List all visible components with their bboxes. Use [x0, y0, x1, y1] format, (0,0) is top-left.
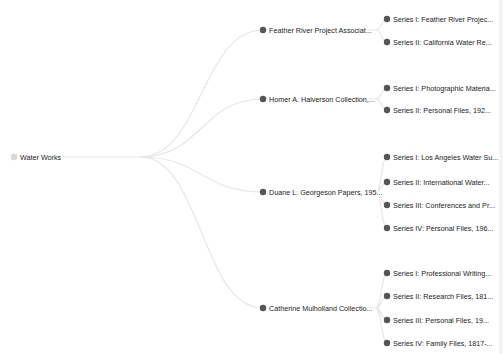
node-label: Series I: Los Angeles Water Su...: [393, 153, 498, 162]
node-label: Series II: Research Files, 181...: [393, 292, 493, 301]
node-dot-icon[interactable]: [384, 16, 390, 22]
node-label: Feather River Project Associat...: [269, 26, 372, 35]
node-dot-icon[interactable]: [384, 225, 390, 231]
tree-links: [14, 19, 387, 343]
node-label: Series I: Professional Writing...: [393, 269, 491, 278]
series-node[interactable]: Series I: Photographic Materia...: [384, 84, 496, 93]
node-dot-icon[interactable]: [260, 96, 266, 102]
node-dot-icon[interactable]: [384, 293, 390, 299]
node-label: Series II: California Water Re...: [393, 38, 492, 47]
node-dot-icon[interactable]: [260, 189, 266, 195]
series-node[interactable]: Series I: Los Angeles Water Su...: [384, 153, 498, 162]
node-label: Series I: Feather River Projec...: [393, 15, 493, 24]
series-node[interactable]: Series I: Professional Writing...: [384, 269, 491, 278]
node-label: Series IV: Personal Files, 196...: [393, 224, 493, 233]
node-dot-icon[interactable]: [260, 305, 266, 311]
node-dot-icon[interactable]: [384, 107, 390, 113]
link-root-to-collection: [140, 157, 263, 308]
node-label: Series IV: Family Files, 1817-...: [393, 339, 493, 348]
collection-node[interactable]: Feather River Project Associat...: [260, 26, 372, 35]
series-node[interactable]: Series IV: Family Files, 1817-...: [384, 339, 493, 348]
node-dot-icon[interactable]: [384, 317, 390, 323]
node-label: Series II: Personal Files, 192...: [393, 106, 491, 115]
node-dot-icon[interactable]: [384, 85, 390, 91]
node-dot-icon[interactable]: [384, 179, 390, 185]
series-node[interactable]: Series II: International Water...: [384, 178, 490, 187]
collapsed-node-icon[interactable]: [11, 154, 17, 160]
series-node[interactable]: Series I: Feather River Projec...: [384, 15, 493, 24]
series-node[interactable]: Series II: California Water Re...: [384, 38, 492, 47]
collection-node[interactable]: Duane L. Georgeson Papers, 195...: [260, 188, 383, 197]
tree-nodes: Water WorksFeather River Project Associa…: [11, 15, 498, 348]
node-label: Homer A. Halverson Collection,...: [269, 95, 375, 104]
node-dot-icon[interactable]: [384, 270, 390, 276]
node-dot-icon[interactable]: [384, 154, 390, 160]
node-label: Series I: Photographic Materia...: [393, 84, 496, 93]
node-label: Series III: Conferences and Pr...: [393, 201, 495, 210]
node-label: Catherine Mulholland Collectio...: [269, 304, 372, 313]
series-node[interactable]: Series IV: Personal Files, 196...: [384, 224, 494, 233]
node-label: Duane L. Georgeson Papers, 195...: [269, 188, 382, 197]
collection-node[interactable]: Catherine Mulholland Collectio...: [260, 304, 373, 313]
series-node[interactable]: Series II: Personal Files, 192...: [384, 106, 491, 115]
link-root-to-collection: [140, 30, 263, 157]
tree-diagram: Water WorksFeather River Project Associa…: [0, 0, 503, 354]
node-dot-icon[interactable]: [384, 39, 390, 45]
series-node[interactable]: Series II: Research Files, 181...: [384, 292, 493, 301]
series-node[interactable]: Series III: Conferences and Pr...: [384, 201, 495, 210]
node-dot-icon[interactable]: [384, 202, 390, 208]
collection-node[interactable]: Homer A. Halverson Collection,...: [260, 95, 375, 104]
node-dot-icon[interactable]: [260, 27, 266, 33]
series-node[interactable]: Series III: Personal Files, 19...: [384, 316, 489, 325]
node-label: Series III: Personal Files, 19...: [393, 316, 489, 325]
node-dot-icon[interactable]: [384, 340, 390, 346]
scrollbar-track[interactable]: [499, 0, 503, 354]
link-root-to-collection: [140, 99, 263, 157]
node-label: Series II: International Water...: [393, 178, 489, 187]
node-label: Water Works: [20, 153, 62, 162]
